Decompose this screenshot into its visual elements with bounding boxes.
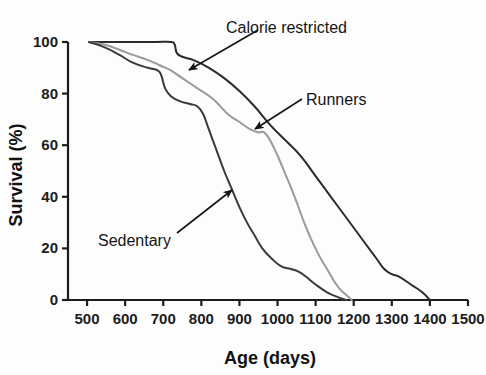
annotation-label-calorie-restricted: Calorie restricted [226, 19, 347, 36]
x-tick-label: 900 [227, 310, 252, 327]
x-axis-title: Age (days) [224, 348, 316, 368]
y-tick-label: 40 [41, 188, 58, 205]
annotation-label-sedentary: Sedentary [98, 232, 171, 249]
x-tick-label: 800 [189, 310, 214, 327]
y-tick-label: 80 [41, 85, 58, 102]
axes: 0204060801005006007008009001000110012001… [33, 33, 485, 327]
x-tick-label: 1500 [451, 310, 484, 327]
annotation-label-runners: Runners [306, 91, 366, 108]
x-tick-label: 1300 [375, 310, 408, 327]
x-tick-label: 500 [75, 310, 100, 327]
y-tick-label: 0 [50, 291, 58, 308]
x-tick-label: 1100 [299, 310, 332, 327]
data-series: Calorie restrictedRunnersSedentary [89, 42, 430, 300]
y-tick-label: 20 [41, 239, 58, 256]
y-axis-title: Survival (%) [6, 123, 26, 226]
series-line-sedentary: Sedentary [89, 42, 346, 300]
x-tick-label: 1200 [337, 310, 370, 327]
x-tick-label: 1000 [261, 310, 294, 327]
y-tick-label: 60 [41, 136, 58, 153]
survival-curve-figure: 0204060801005006007008009001000110012001… [0, 0, 486, 375]
x-tick-label: 700 [151, 310, 176, 327]
annotation-arrow-sedentary [177, 190, 232, 233]
annotations: Calorie restrictedRunnersSedentary [98, 19, 366, 249]
x-tick-label: 1400 [413, 310, 446, 327]
x-tick-label: 600 [113, 310, 138, 327]
chart-canvas: 0204060801005006007008009001000110012001… [0, 0, 486, 375]
y-tick-label: 100 [33, 33, 58, 50]
series-line-calorie-restricted: Calorie restricted [89, 42, 430, 300]
